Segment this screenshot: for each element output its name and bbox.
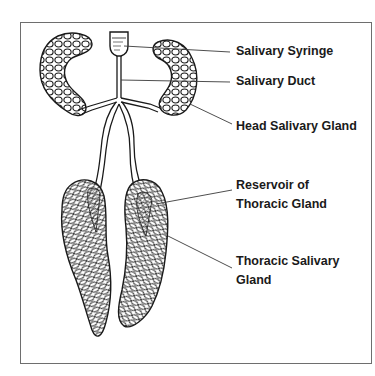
label-reservoir-line1: Reservoir of bbox=[236, 176, 309, 195]
label-salivary-syringe: Salivary Syringe bbox=[236, 42, 333, 61]
left-head-salivary-gland bbox=[40, 33, 92, 115]
label-head-salivary-gland: Head Salivary Gland bbox=[236, 117, 357, 136]
label-reservoir-line2: Thoracic Gland bbox=[236, 195, 327, 214]
left-thoracic-salivary-gland bbox=[62, 180, 111, 336]
label-thoracic-line1: Thoracic Salivary bbox=[236, 252, 340, 271]
salivary-ducts bbox=[78, 56, 160, 200]
right-thoracic-salivary-gland bbox=[119, 180, 168, 327]
label-thoracic-line2: Gland bbox=[236, 271, 271, 290]
label-salivary-duct: Salivary Duct bbox=[236, 72, 315, 91]
salivary-syringe bbox=[110, 32, 128, 56]
